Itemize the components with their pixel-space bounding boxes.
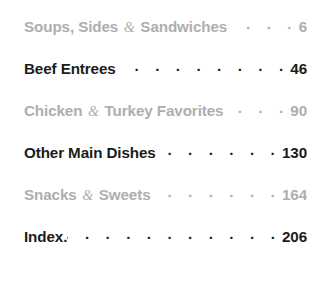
toc-entry-beef-entrees[interactable]: Beef Entrees . . . . . . . . . . . . . .… bbox=[24, 58, 307, 100]
toc-entry-page-number[interactable]: 130 bbox=[282, 145, 307, 160]
toc-entry-title: Snacks & Sweets bbox=[24, 187, 151, 202]
ampersand-glyph: & bbox=[81, 187, 95, 203]
dot-leader-dots: . . . . . . bbox=[226, 100, 289, 115]
dot-leader-dots: . . . . . . . . . . . . . . . . . bbox=[119, 58, 290, 73]
toc-entry-title: Index. bbox=[24, 229, 67, 244]
toc-entry-page-number[interactable]: 164 bbox=[282, 187, 307, 202]
toc-entry-page-number[interactable]: 6 bbox=[299, 19, 307, 34]
dot-leader: . . . . . . . . . . . . . . . . . bbox=[119, 58, 290, 74]
toc-entry-title: Beef Entrees bbox=[24, 61, 116, 76]
toc-entry-snacks-sweets[interactable]: Snacks & Sweets . . . . . . . . . . . . … bbox=[24, 184, 307, 226]
toc-entry-page-number[interactable]: 206 bbox=[282, 229, 307, 244]
toc-entry-chicken-turkey-favorites[interactable]: Chicken & Turkey Favorites . . . . . . 9… bbox=[24, 100, 307, 142]
dot-leader: . . . . . . bbox=[226, 100, 289, 116]
dot-leader-dots: . . . . . . . . . . . . bbox=[159, 142, 281, 157]
ampersand-glyph: & bbox=[122, 19, 136, 35]
toc-entry-title: Soups, Sides & Sandwiches bbox=[24, 19, 227, 34]
toc-entry-soups-sides-sandwiches[interactable]: Soups, Sides & Sandwiches . . . . . . . … bbox=[24, 16, 307, 58]
toc-entry-index[interactable]: Index. . . . . . . . . . . . . . . . . .… bbox=[24, 226, 307, 268]
ampersand-glyph: & bbox=[87, 103, 101, 119]
table-of-contents: Soups, Sides & Sandwiches . . . . . . . … bbox=[0, 0, 329, 283]
toc-entry-other-main-dishes[interactable]: Other Main Dishes . . . . . . . . . . . … bbox=[24, 142, 307, 184]
dot-leader-dots: . . . . . . . . . . . . . . . . . . bbox=[67, 226, 281, 241]
dot-leader: . . . . . . . bbox=[230, 16, 298, 32]
toc-entry-title: Chicken & Turkey Favorites bbox=[24, 103, 223, 118]
dot-leader: . . . . . . . . . . . . . . . . . . bbox=[67, 226, 281, 242]
toc-entry-page-number[interactable]: 90 bbox=[290, 103, 307, 118]
dot-leader-dots: . . . . . . . . . . . . . bbox=[154, 184, 281, 199]
dot-leader-dots: . . . . . . . bbox=[230, 16, 298, 31]
dot-leader: . . . . . . . . . . . . bbox=[159, 142, 281, 158]
toc-entry-page-number[interactable]: 46 bbox=[290, 61, 307, 76]
dot-leader: . . . . . . . . . . . . . bbox=[154, 184, 281, 200]
toc-entry-title: Other Main Dishes bbox=[24, 145, 156, 160]
